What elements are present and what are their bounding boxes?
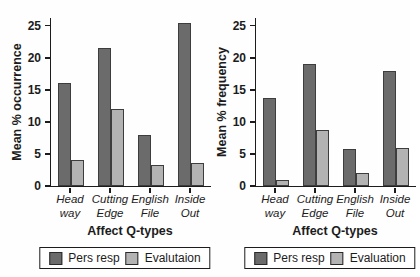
legend-swatch-evalutaion bbox=[126, 252, 139, 265]
y-tick-label: 20 bbox=[205, 51, 246, 65]
bar-pers-resp-cutting-edge bbox=[98, 48, 111, 186]
bar-evalutaion-head-way bbox=[71, 160, 84, 186]
bar-pers-resp-inside-out bbox=[383, 71, 396, 186]
y-tick-label: 5 bbox=[0, 147, 41, 161]
x-tick-mark bbox=[314, 188, 316, 193]
y-tick-mark bbox=[250, 89, 255, 91]
bar-pers-resp-inside-out bbox=[178, 23, 191, 187]
x-tick-mark bbox=[109, 188, 111, 193]
y-tick-label: 0 bbox=[0, 179, 41, 193]
y-tick-label: 25 bbox=[0, 19, 41, 33]
y-tick-mark bbox=[250, 57, 255, 59]
x-axis-label: Affect Q-types bbox=[50, 224, 210, 238]
bar-evaluation-head-way bbox=[276, 180, 289, 186]
bar-pers-resp-head-way bbox=[58, 83, 71, 186]
plot-area bbox=[50, 18, 211, 187]
chart-mean-frequency: Mean % frequency Affect Q-types Pers res… bbox=[205, 0, 410, 277]
x-tick-mark bbox=[394, 188, 396, 193]
chart-mean-occurrence: Mean % occurrence Affect Q-types Pers re… bbox=[0, 0, 205, 277]
bar-pers-resp-english-file bbox=[138, 135, 151, 186]
bar-pers-resp-english-file bbox=[343, 149, 356, 186]
bar-evaluation-inside-out bbox=[396, 148, 409, 186]
y-tick-label: 0 bbox=[205, 179, 246, 193]
y-tick-mark bbox=[45, 121, 50, 123]
y-tick-mark bbox=[45, 25, 50, 27]
x-tick-mark bbox=[274, 188, 276, 193]
y-tick-label: 15 bbox=[205, 83, 246, 97]
y-tick-mark bbox=[45, 89, 50, 91]
category-label-inside-out: InsideOut bbox=[368, 193, 420, 221]
x-tick-mark bbox=[149, 188, 151, 193]
x-tick-mark bbox=[354, 188, 356, 193]
legend-label-pers-resp: Pers resp bbox=[68, 251, 119, 265]
y-tick-label: 25 bbox=[205, 19, 246, 33]
legend-label-evalutaion: Evalutaion bbox=[145, 251, 201, 265]
y-tick-mark bbox=[250, 153, 255, 155]
x-tick-mark bbox=[189, 188, 191, 193]
bar-evaluation-english-file bbox=[356, 173, 369, 186]
y-tick-mark bbox=[45, 153, 50, 155]
bar-evalutaion-cutting-edge bbox=[111, 109, 124, 186]
y-tick-label: 20 bbox=[0, 51, 41, 65]
y-tick-label: 15 bbox=[0, 83, 41, 97]
legend: Pers resp Evaluation bbox=[244, 247, 415, 269]
bar-evaluation-cutting-edge bbox=[316, 130, 329, 186]
x-tick-mark bbox=[69, 188, 71, 193]
legend: Pers resp Evalutaion bbox=[39, 247, 210, 269]
y-tick-mark bbox=[45, 185, 50, 187]
y-tick-mark bbox=[45, 57, 50, 59]
legend-swatch-evaluation bbox=[331, 252, 344, 265]
bar-evalutaion-english-file bbox=[151, 165, 164, 186]
bar-pers-resp-cutting-edge bbox=[303, 64, 316, 186]
legend-label-pers-resp: Pers resp bbox=[273, 251, 324, 265]
plot-area bbox=[255, 18, 416, 187]
y-tick-label: 10 bbox=[205, 115, 246, 129]
y-tick-mark bbox=[250, 25, 255, 27]
bar-pers-resp-head-way bbox=[263, 98, 276, 186]
y-tick-label: 10 bbox=[0, 115, 41, 129]
legend-swatch-pers-resp bbox=[49, 252, 62, 265]
y-tick-label: 5 bbox=[205, 147, 246, 161]
legend-label-evaluation: Evaluation bbox=[350, 251, 406, 265]
x-axis-label: Affect Q-types bbox=[255, 224, 415, 238]
bar-evalutaion-inside-out bbox=[191, 163, 204, 186]
legend-swatch-pers-resp bbox=[254, 252, 267, 265]
y-tick-mark bbox=[250, 121, 255, 123]
y-tick-mark bbox=[250, 185, 255, 187]
